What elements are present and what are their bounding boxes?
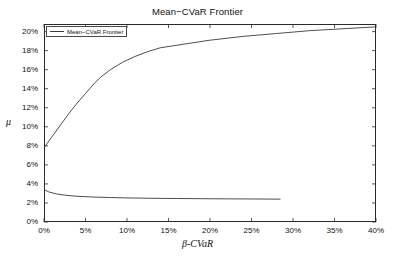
- x-tick-label: 15%: [149, 226, 189, 235]
- x-tick-label: 30%: [273, 226, 313, 235]
- y-tick-label: 2%: [4, 198, 38, 207]
- x-tick-label: 0%: [24, 226, 64, 235]
- plot-area: [44, 24, 376, 222]
- y-tick-label: 12%: [4, 103, 38, 112]
- y-tick-label: 10%: [4, 122, 38, 131]
- x-tick-label: 20%: [190, 226, 230, 235]
- y-tick-label: 18%: [4, 46, 38, 55]
- x-tick-label: 40%: [356, 226, 395, 235]
- x-tick-label: 25%: [232, 226, 272, 235]
- x-tick-label: 10%: [107, 226, 147, 235]
- y-tick-label: 6%: [4, 160, 38, 169]
- legend-label: Mean−CVaR Frontier: [67, 29, 123, 35]
- chart-legend: Mean−CVaR Frontier: [46, 26, 127, 37]
- legend-line-icon: [50, 31, 64, 32]
- chart-figure: Mean−CVaR Frontier μ β-CVaR 0%2%4%6%8%10…: [0, 0, 395, 260]
- y-tick-label: 0%: [4, 217, 38, 226]
- x-axis-label: β-CVaR: [0, 238, 395, 249]
- chart-title: Mean−CVaR Frontier: [0, 6, 395, 17]
- x-tick-label: 5%: [66, 226, 106, 235]
- x-tick-label: 35%: [315, 226, 355, 235]
- x-axis-label-text: β-CVaR: [182, 238, 213, 249]
- y-tick-label: 16%: [4, 65, 38, 74]
- y-tick-label: 4%: [4, 179, 38, 188]
- y-tick-label: 20%: [4, 27, 38, 36]
- y-tick-label: 8%: [4, 141, 38, 150]
- y-tick-label: 14%: [4, 84, 38, 93]
